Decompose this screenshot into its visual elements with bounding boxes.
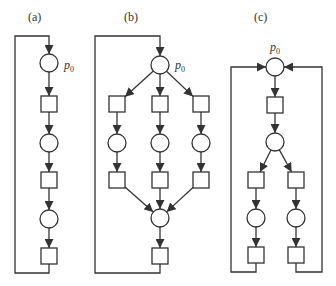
panel-c: (c) p0 [231,10,322,272]
p0-label-a: p0 [63,58,74,74]
transition-t3 [248,247,264,263]
transition-t0 [267,97,283,113]
transition-t2 [288,172,304,188]
nodes-b [108,56,210,264]
panel-label-c: (c) [254,10,267,24]
transition-t2 [193,96,209,112]
transition-t5 [193,172,209,188]
arc [125,187,153,212]
p0-label-b: p0 [174,58,185,74]
panel-a: (a) p0 [15,10,74,273]
place-p4 [151,209,169,227]
transition-t1 [41,172,57,188]
figure-svg: (a) p0 (b) p0 (c) p0 [0,0,336,286]
place-p0 [266,58,284,76]
arc [279,150,291,172]
panel-label-a: (a) [28,10,41,24]
petri-net-figure: (a) p0 (b) p0 (c) p0 [0,0,336,286]
place-p2 [40,210,58,228]
loop-arc [15,36,49,273]
transition-t0 [109,96,125,112]
place-p2 [247,209,265,227]
arc [167,71,193,96]
loop-arc [95,36,160,273]
arc [125,71,153,97]
place-p3 [287,209,305,227]
loop-arcs-a [15,36,49,273]
arc [260,150,271,172]
place-p1 [266,133,284,151]
transition-t4 [152,172,168,188]
place-p0 [151,56,169,74]
transition-t0 [41,96,57,112]
transition-t3 [109,172,125,188]
loop-arcs-b [95,36,160,273]
place-p1 [40,134,58,152]
transition-t1 [152,96,168,112]
place-p3 [192,134,210,152]
transition-t6 [152,248,168,264]
place-p2 [151,134,169,152]
transition-t2 [41,248,57,264]
transition-t4 [288,247,304,263]
panel-b: (b) p0 [95,10,210,273]
place-p0 [40,54,58,72]
panel-label-b: (b) [124,10,138,24]
transition-t1 [248,172,264,188]
place-p1 [108,134,126,152]
p0-label-c: p0 [269,40,280,56]
arc [167,187,193,211]
